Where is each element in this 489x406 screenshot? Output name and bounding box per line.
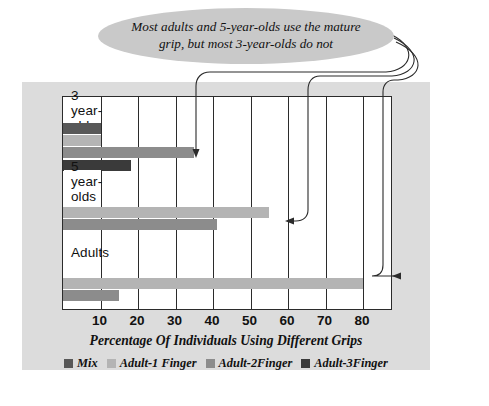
legend-item: Adult-1 Finger [107,356,197,371]
x-tick-label: 80 [354,313,369,328]
legend-label: Adult-2Finger [219,356,293,371]
legend-swatch-icon [206,359,215,368]
category-label: 5 year-olds [64,170,102,192]
callout-line-2: grip, but most 3-year-olds do not [159,36,333,51]
x-tick-label: 70 [317,313,332,328]
chart-figure: 3 year-olds5 year-oldsAdults 10203040506… [0,0,489,406]
category-label: Adults [64,242,102,264]
callout-line-1: Most adults and 5-year-olds use the matu… [131,19,360,34]
legend-item: Adult-2Finger [206,356,293,371]
callout-text: Most adults and 5-year-olds use the matu… [120,19,372,53]
legend-label: Adult-1 Finger [120,356,197,371]
chart-legend: MixAdult-1 FingerAdult-2FingerAdult-3Fin… [22,356,430,371]
x-tick-label: 50 [242,313,257,328]
x-tick-label: 20 [129,313,144,328]
category-label: 3 year-olds [64,99,102,121]
gridline [363,97,364,309]
x-tick-label: 30 [167,313,182,328]
legend-swatch-icon [64,359,73,368]
bar [63,278,363,289]
bar [63,290,119,301]
legend-swatch-icon [301,359,310,368]
x-tick-label: 10 [92,313,107,328]
plot-area: 3 year-olds5 year-oldsAdults [62,96,392,310]
legend-item: Mix [64,356,98,371]
x-axis-title: Percentage Of Individuals Using Differen… [22,333,430,349]
bar [63,219,217,230]
bar [63,207,269,218]
x-tick-label: 60 [279,313,294,328]
legend-item: Adult-3Finger [301,356,388,371]
legend-swatch-icon [107,359,116,368]
x-tick-label: 40 [204,313,219,328]
bar [63,123,101,134]
legend-label: Adult-3Finger [314,356,388,371]
legend-label: Mix [77,356,98,371]
bar [63,135,101,146]
bar [63,147,194,158]
callout-bubble: Most adults and 5-year-olds use the matu… [98,8,394,64]
